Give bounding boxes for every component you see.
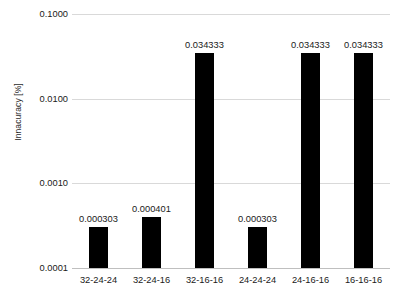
y-axis-tick-label: 0.0100 (22, 94, 68, 104)
bar (195, 53, 214, 268)
bar-value-label: 0.000303 (64, 214, 134, 225)
bar-group: 0.000303 (231, 14, 284, 268)
bar-group: 0.034333 (337, 14, 390, 268)
bar-value-label: 0.000303 (223, 214, 293, 225)
bar-group: 0.034333 (284, 14, 337, 268)
bar (354, 53, 373, 268)
bar-value-label: 0.034333 (329, 40, 394, 51)
y-axis-tick-label: 0.0001 (22, 263, 68, 273)
bar-group: 0.034333 (178, 14, 231, 268)
bar-group: 0.000401 (125, 14, 178, 268)
bar-chart: Innacuracy [%] 0.10000.01000.00100.0001 … (0, 0, 394, 301)
y-axis-tick-label: 0.0010 (22, 178, 68, 188)
plot-area: 0.0003030.0004010.0343330.0003030.034333… (72, 14, 390, 268)
bar (248, 227, 267, 268)
y-axis-tick-label: 0.1000 (22, 9, 68, 19)
y-axis-tick-labels: 0.10000.01000.00100.0001 (22, 0, 68, 301)
bar (89, 227, 108, 268)
x-axis-tick-label: 16-16-16 (329, 274, 394, 286)
x-axis-tick-labels: 32-24-2432-24-1632-16-1624-24-2424-16-16… (72, 274, 390, 290)
bar (142, 217, 161, 268)
axis-baseline (72, 268, 390, 269)
bar-value-label: 0.000401 (117, 204, 187, 215)
bar (301, 53, 320, 268)
bar-value-label: 0.034333 (170, 40, 240, 51)
bar-group: 0.000303 (72, 14, 125, 268)
